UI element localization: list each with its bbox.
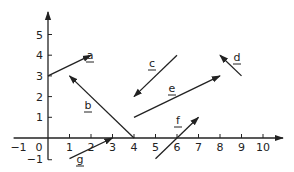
x-tick-label: 6 [174, 141, 181, 154]
vector-b: b [70, 76, 135, 138]
y-tick-label: 1 [36, 111, 43, 124]
vector-label: g [77, 153, 84, 166]
vectors: abcdefg [48, 49, 242, 166]
vector-label: d [234, 51, 241, 64]
x-tick-label: 8 [217, 141, 224, 154]
x-tick-label: −1 [10, 141, 26, 154]
vector-label: c [149, 57, 155, 70]
x-tick-label: 5 [152, 141, 159, 154]
vector-arrow [48, 55, 91, 76]
vector-label: e [169, 82, 176, 95]
y-tick-label: 5 [36, 29, 43, 42]
x-tick-label: 10 [256, 141, 270, 154]
y-tick-label: −1 [27, 153, 43, 166]
y-tick-label: 2 [36, 91, 43, 104]
vector-label: a [87, 49, 94, 62]
y-tick-label: 4 [36, 49, 43, 62]
vector-label: b [85, 99, 92, 112]
x-tick-label: 3 [109, 141, 116, 154]
vector-a: a [48, 49, 94, 76]
x-tick-label: 7 [195, 141, 202, 154]
vector-e: e [134, 76, 220, 117]
x-tick-label: 1 [66, 141, 73, 154]
vector-diagram: −1012345678910−112345 abcdefg [0, 0, 294, 172]
x-tick-label: 4 [131, 141, 138, 154]
vector-label: f [176, 114, 181, 127]
vector-arrow [134, 76, 220, 117]
x-tick-label: 9 [238, 141, 245, 154]
vector-arrow [70, 76, 135, 138]
y-tick-label: 3 [36, 70, 43, 83]
vector-d: d [220, 51, 242, 76]
axes [14, 12, 283, 160]
